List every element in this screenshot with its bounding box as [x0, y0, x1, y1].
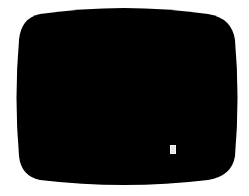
cursor-block-icon: [170, 145, 176, 154]
crt-screen: [0, 0, 249, 196]
crt-screen-icon: [0, 0, 249, 196]
crt-screen-shape: [17, 8, 238, 185]
